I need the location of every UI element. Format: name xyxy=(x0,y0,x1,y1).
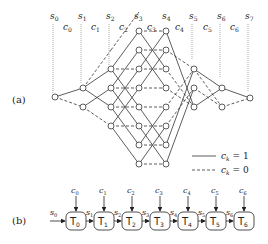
svg-text:s1: s1 xyxy=(86,208,93,218)
state-label-s4: s4 xyxy=(162,11,171,22)
svg-text:s2: s2 xyxy=(114,208,121,218)
legend-dashed-text: ck = 0 xyxy=(221,165,249,176)
svg-text:c5: c5 xyxy=(211,186,219,196)
svg-text:c2: c2 xyxy=(127,186,135,196)
svg-text:s6: s6 xyxy=(226,208,233,218)
state-label-s5: s5 xyxy=(189,11,198,22)
block-T0: T0 c0 xyxy=(66,186,86,230)
state-label-s6: s6 xyxy=(217,11,226,22)
state-label-s2: s2 xyxy=(106,11,115,22)
block-T3: T3 c3 xyxy=(150,186,170,230)
svg-text:c2: c2 xyxy=(119,22,128,33)
state-label-s1: s1 xyxy=(78,11,86,22)
svg-text:s4: s4 xyxy=(170,208,177,218)
panel-b-label: (b) xyxy=(12,215,26,226)
state-label-s7: s7 xyxy=(245,11,254,22)
panel-a-label: (a) xyxy=(12,94,26,105)
block-T6: T6 c6 xyxy=(234,186,254,230)
svg-text:s3: s3 xyxy=(142,208,149,218)
svg-text:c6: c6 xyxy=(239,186,247,196)
svg-text:c6: c6 xyxy=(230,22,239,33)
svg-text:c4: c4 xyxy=(175,22,184,33)
svg-text:c0: c0 xyxy=(63,22,72,33)
legend: ck = 1 ck = 0 xyxy=(192,151,249,176)
block-T4: T4 c4 xyxy=(178,186,198,230)
block-T2: T2 c2 xyxy=(122,186,142,230)
svg-text:c4: c4 xyxy=(183,186,191,196)
svg-text:s5: s5 xyxy=(198,208,205,218)
svg-text:c1: c1 xyxy=(91,22,100,33)
svg-text:c3: c3 xyxy=(155,186,163,196)
svg-text:s0: s0 xyxy=(50,208,57,218)
solid-edges xyxy=(55,31,250,164)
state-label-s0: s0 xyxy=(50,11,59,22)
block-T5: T5 c5 xyxy=(206,186,226,230)
state-labels: s0 s1 s2 s3 s4 s5 s6 s7 xyxy=(50,11,254,22)
legend-solid-text: ck = 1 xyxy=(221,151,249,162)
svg-text:c0: c0 xyxy=(71,186,79,196)
block-chain: s0 T0 c0 s1 T1 c1 s2 T2 c2 s3 T3 xyxy=(50,186,254,230)
svg-text:c1: c1 xyxy=(99,186,107,196)
trellis-figure: (a) s0 s1 s2 s3 s4 s5 s6 s7 c0 c1 c2 c3 … xyxy=(0,0,268,244)
trellis-nodes xyxy=(52,28,253,167)
block-T1: T1 c1 xyxy=(94,186,114,230)
column-guides xyxy=(53,24,248,93)
svg-text:c5: c5 xyxy=(203,22,212,33)
